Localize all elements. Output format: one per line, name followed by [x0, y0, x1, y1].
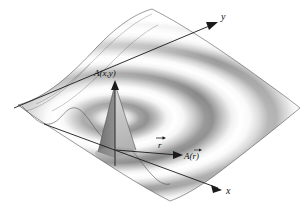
surface-top-fade: [0, 0, 304, 64]
x-axis-label: x: [225, 185, 231, 196]
y-axis-label: y: [220, 11, 226, 22]
peak-base-shadow: [95, 147, 137, 159]
amplitude-at-r-label: A(r): [183, 151, 199, 161]
figure-canvas: y x A(x,y) r A(r): [0, 0, 304, 204]
arrow-icon-x-axis: [211, 185, 222, 193]
wave-surface-sheet: [0, 0, 304, 204]
position-vector-label: r: [158, 140, 162, 150]
wave-surface-figure: y x A(x,y) r A(r): [0, 0, 304, 204]
arrow-icon-y-axis: [206, 22, 218, 30]
amplitude-function-label: A(x,y): [93, 68, 116, 78]
